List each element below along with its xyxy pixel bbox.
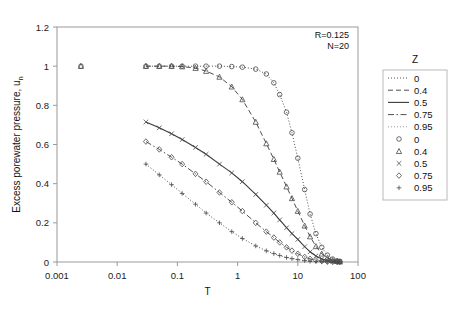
legend-title: Z xyxy=(412,54,418,65)
legend-label-line-z-0: 0 xyxy=(414,73,419,84)
x-axis-title: T xyxy=(204,286,210,297)
legend-label-marker-z-0.95: 0.95 xyxy=(414,182,433,193)
y-tick-label: 0.8 xyxy=(36,100,49,111)
x-tick-label: 10 xyxy=(293,270,304,281)
chart-figure: 0.0010.010.1110100 00.20.40.60.811.2 R=0… xyxy=(0,0,458,314)
x-tick-label: 0.01 xyxy=(108,270,127,281)
legend-label-marker-z-0.5: 0.5 xyxy=(414,158,427,169)
legend-label-line-z-0.4: 0.4 xyxy=(414,85,427,96)
y-tick-label: 1 xyxy=(44,61,49,72)
plot-frame xyxy=(57,27,358,262)
annotation-line: N=20 xyxy=(327,41,349,51)
annotation-line: R=0.125 xyxy=(315,30,349,40)
plot-area-border xyxy=(57,27,358,262)
legend-label-line-z-0.5: 0.5 xyxy=(414,97,427,108)
legend-label-line-z-0.95: 0.95 xyxy=(414,121,433,132)
x-tick-label: 0.001 xyxy=(45,270,69,281)
x-axis-ticks: 0.0010.010.1110100 xyxy=(45,262,366,281)
y-tick-label: 0.4 xyxy=(36,178,49,189)
legend-label-marker-z-0: 0 xyxy=(414,134,419,145)
y-tick-label: 0.6 xyxy=(36,139,49,150)
legend-label-line-z-0.75: 0.75 xyxy=(414,109,433,120)
x-tick-label: 0.1 xyxy=(171,270,184,281)
legend-label-marker-z-0.4: 0.4 xyxy=(414,146,427,157)
y-axis-ticks: 00.20.40.60.811.2 xyxy=(36,22,57,268)
y-tick-label: 1.2 xyxy=(36,22,49,33)
x-tick-label: 100 xyxy=(350,270,366,281)
y-tick-label: 0 xyxy=(44,257,49,268)
x-tick-label: 1 xyxy=(235,270,240,281)
legend-label-marker-z-0.75: 0.75 xyxy=(414,170,433,181)
y-axis-title: Excess porewater pressure, un xyxy=(11,76,25,212)
chart-legend: Z00.40.50.750.9500.40.50.750.95 xyxy=(383,54,447,200)
y-tick-label: 0.2 xyxy=(36,217,49,228)
